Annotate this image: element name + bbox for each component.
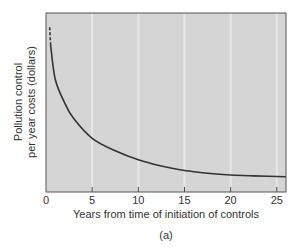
chart: 0510152025 Years from time of initiation… (0, 0, 300, 252)
x-axis-title: Years from time of initiation of control… (73, 208, 260, 220)
x-tick-label: 20 (224, 194, 236, 206)
figure-caption: (a) (159, 229, 172, 241)
x-tick-label: 15 (178, 194, 190, 206)
x-tick-label: 5 (89, 194, 95, 206)
y-axis-title-line1: Pollution control (12, 63, 24, 141)
plot-area (46, 13, 286, 192)
x-axis-tick-labels: 0510152025 (43, 194, 283, 206)
x-tick-label: 10 (132, 194, 144, 206)
y-axis-title-line2: per year costs (dollars) (25, 46, 37, 158)
x-tick-label: 25 (271, 194, 283, 206)
x-tick-label: 0 (43, 194, 49, 206)
